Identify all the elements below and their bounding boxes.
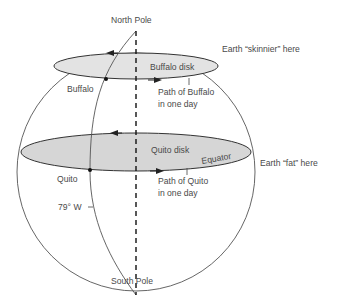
- north-pole-label: North Pole: [111, 15, 152, 25]
- path-buffalo-label-1: Path of Buffalo: [158, 87, 214, 97]
- buffalo-dot: [104, 77, 108, 81]
- buffalo-disk-label: Buffalo disk: [150, 62, 195, 72]
- meridian-label: 79° W: [58, 202, 82, 212]
- fat-label: Earth “fat” here: [260, 158, 318, 168]
- path-buffalo-label-2: in one day: [158, 99, 198, 109]
- skinnier-label: Earth “skinnier” here: [222, 44, 300, 54]
- quito-dot: [88, 168, 92, 172]
- quito-disk-label: Quito disk: [151, 145, 190, 155]
- path-quito-label-2: in one day: [158, 188, 198, 198]
- buffalo-label: Buffalo: [67, 84, 94, 94]
- quito-label: Quito: [57, 174, 78, 184]
- path-quito-label-1: Path of Quito: [158, 176, 208, 186]
- earth-rotation-diagram: North Pole South Pole Earth “skinnier” h…: [0, 0, 345, 298]
- south-pole-label: South Pole: [111, 276, 153, 286]
